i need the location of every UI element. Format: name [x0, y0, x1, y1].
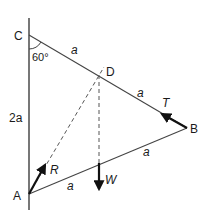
statics-diagram: C A B D 60° a a a a 2a T R W: [0, 0, 208, 220]
length-label-bm: a: [143, 145, 150, 159]
point-a-label: A: [13, 189, 21, 203]
point-b-label: B: [190, 122, 198, 136]
force-t-label: T: [162, 96, 171, 110]
angle-label: 60°: [32, 51, 49, 63]
tension-arrow: [162, 114, 187, 128]
length-label-ma: a: [67, 179, 74, 193]
point-d-label: D: [106, 65, 115, 79]
reaction-arrow: [29, 165, 45, 194]
force-r-label: R: [50, 163, 59, 177]
angle-arc: [29, 42, 41, 49]
force-w-label: W: [105, 173, 118, 187]
point-c-label: C: [14, 29, 23, 43]
length-label-db: a: [137, 86, 144, 100]
length-label-cd: a: [71, 43, 78, 57]
length-label-ca: 2a: [9, 111, 23, 125]
